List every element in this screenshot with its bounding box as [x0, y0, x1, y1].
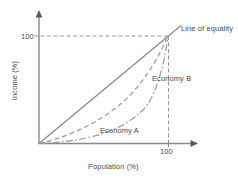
x-axis-arrow-icon [191, 140, 199, 147]
lorenz-curve-figure: 100 100 Population (%) Income (%) Line o… [0, 0, 238, 178]
y-axis-title: Income (%) [10, 53, 19, 109]
x-axis-tick-label-100: 100 [160, 147, 173, 156]
annotation-economy-b: Economy B [152, 74, 191, 83]
x-axis-title: Population (%) [88, 162, 139, 171]
annotation-line-of-equality: Line of equality [181, 24, 233, 33]
y-axis-arrow-icon [36, 10, 43, 18]
x-axis [38, 140, 198, 147]
y-axis-tick-label-100: 100 [21, 32, 34, 41]
annotation-economy-a: Economy A [100, 126, 139, 135]
y-axis [36, 10, 43, 144]
